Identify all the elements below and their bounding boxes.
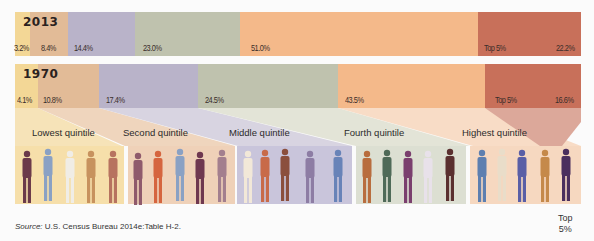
top5-line1: Top: [558, 213, 573, 224]
top5-line2: 5%: [558, 224, 573, 235]
source-text: U.S. Census Bureau 2014e:Table H-2.: [43, 222, 181, 231]
source-prefix: Source:: [15, 222, 43, 231]
source-note: Source: U.S. Census Bureau 2014e:Table H…: [15, 222, 181, 231]
top5-person-label: Top 5%: [558, 213, 573, 235]
people-illustrations: [0, 0, 594, 241]
